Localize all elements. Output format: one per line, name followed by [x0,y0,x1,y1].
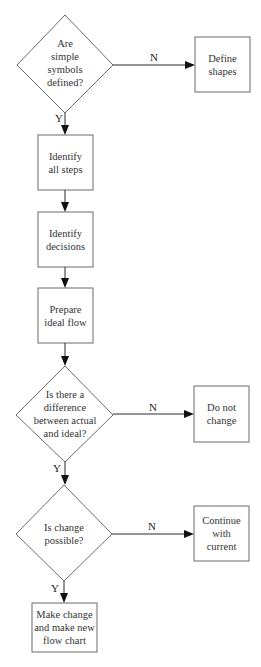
process-make-change-text: Make change and make new flow chart [32,608,97,647]
process-continue-current-text: Continue with current [194,514,249,553]
connector-prepare-d2 [61,343,69,366]
process-prepare-ideal-flow-text: Prepare ideal flow [38,303,93,329]
process-do-not-change-text: Do not change [194,401,249,427]
text-line: simple [25,50,105,63]
connector-d2-d3 [61,462,69,485]
decision-difference-text: Is there a difference between actual and… [20,388,110,440]
text-line: and make new [32,621,97,634]
text-line: Prepare [38,303,93,316]
edge-label-no: N [149,401,157,413]
text-line: change [194,414,249,427]
text-line: Is there a [20,388,110,401]
text-line: flow chart [32,634,97,647]
text-line: between actual [20,414,110,427]
text-line: Are [25,37,105,50]
text-line: decisions [38,240,93,253]
edge-label-yes: Y [55,112,63,124]
text-line: Make change [32,608,97,621]
text-line: Do not [194,401,249,414]
text-line: Is change [24,521,104,534]
text-line: possible? [24,534,104,547]
text-line: Identify [38,150,93,163]
process-identify-steps-text: Identify all steps [38,150,93,176]
text-line: difference [20,401,110,414]
text-line: defined? [25,76,105,89]
decision-symbols-defined-text: Are simple symbols defined? [25,37,105,89]
flowchart-canvas [0,0,261,667]
text-line: with [194,527,249,540]
connector-decisions-prepare [61,267,69,288]
text-line: and ideal? [20,427,110,440]
text-line: Identify [38,227,93,240]
process-identify-decisions-text: Identify decisions [38,227,93,253]
edge-label-yes: Y [53,462,61,474]
text-line: Define [195,52,250,65]
text-line: current [194,540,249,553]
edge-label-no: N [150,51,158,63]
text-line: shapes [195,65,250,78]
text-line: symbols [25,63,105,76]
text-line: ideal flow [38,316,93,329]
text-line: all steps [38,163,93,176]
connector-d3-make [60,581,68,603]
connector-steps-decisions [61,190,69,212]
edge-label-yes: Y [51,582,59,594]
process-define-shapes-text: Define shapes [195,52,250,78]
decision-change-possible-text: Is change possible? [24,521,104,547]
text-line: Continue [194,514,249,527]
edge-label-no: N [148,520,156,532]
